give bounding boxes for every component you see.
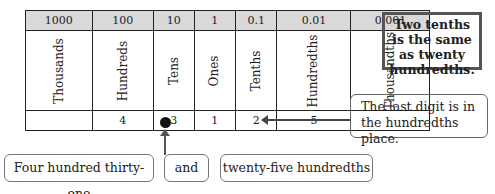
header-cell: 1 [194, 11, 235, 31]
and-label: and [164, 154, 209, 182]
place-name-cell: Ones [194, 31, 235, 111]
place-name: Tenths [249, 50, 263, 91]
digit-cell: 1 [194, 111, 235, 131]
whole-number-label: Four hundred thirty-one [4, 154, 154, 182]
place-name: Hundreds [116, 40, 130, 100]
digit-cell: 2 [235, 111, 277, 131]
place-name: Hundredths [307, 34, 321, 107]
header-cell: 0.01 [277, 11, 351, 31]
place-name: Ones [208, 55, 222, 86]
arrow-left-icon [264, 119, 350, 121]
place-name-cell: Hundredths [277, 31, 351, 111]
arrow-up-icon [164, 133, 166, 155]
header-row: 1000 100 10 1 0.1 0.01 0.001 [26, 11, 430, 31]
decimal-point-icon [160, 117, 171, 128]
equivalence-note: Two tenths is the same as twenty hundred… [382, 12, 482, 70]
place-name-cell: Tenths [235, 31, 277, 111]
digit-cell: 4 [92, 111, 153, 131]
place-name: Thousands [52, 38, 66, 104]
digit-cell [26, 111, 93, 131]
place-name-cell: Thousands [26, 31, 93, 111]
header-cell: 100 [92, 11, 153, 31]
header-cell: 0.1 [235, 11, 277, 31]
hundredths-callout: The last digit is in the hundredths plac… [350, 94, 488, 138]
fraction-label: twenty-five hundredths [220, 154, 373, 182]
header-cell: 1000 [26, 11, 93, 31]
place-name-cell: Hundreds [92, 31, 153, 111]
digit-cell: 5 [277, 111, 351, 131]
place-name-cell: Tens [153, 31, 194, 111]
header-cell: 10 [153, 11, 194, 31]
place-name: Tens [167, 56, 181, 84]
